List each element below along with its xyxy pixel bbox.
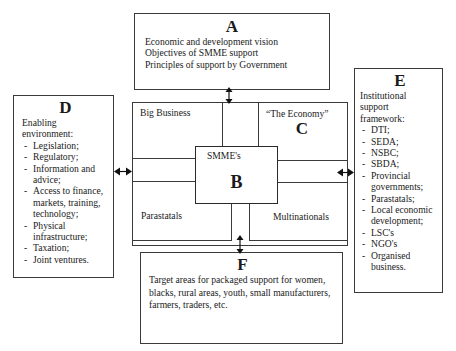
box-b-label: SMME's [196,150,277,161]
box-c-letter: C [292,120,312,138]
box-f-letter: F [149,256,336,274]
box-e-letter: E [360,72,440,90]
box-a-line-1: Economic and development vision [145,36,329,47]
box-e-item: NSBC; [360,147,440,158]
box-e-item: NGO's [360,238,440,249]
arrow-d-c-icon [114,167,132,176]
quadrant-parastatals: Parastatals [141,210,182,221]
box-b-letter: B [196,173,277,191]
box-e-item: LSC's [360,227,440,238]
box-e-heading: Institutional support framework: [360,90,420,124]
box-d-letter: D [22,99,109,117]
arrow-c-f-icon [235,235,245,254]
box-d-item: Joint ventures. [22,254,109,265]
box-e-institutional-support: E Institutional support framework: DTI; … [354,68,443,293]
quadrant-big-business: Big Business [140,107,190,118]
c-divider [249,203,250,241]
box-e-item: SBDA; [360,158,440,169]
box-d-item: Physical infrastructure; [22,220,109,243]
box-d-heading: Enabling environment: [22,117,92,140]
quadrant-multinationals: Multinationals [273,211,329,222]
box-a-vision: A Economic and development vision Object… [134,13,330,90]
box-d-item: Access to finance, markets, training, te… [22,185,109,219]
box-e-item: SEDA; [360,136,440,147]
box-e-item: Parastatals; [360,193,440,204]
box-d-item: Regulatory; [22,151,109,162]
box-d-list: Legislation; Regulatory; Information and… [22,140,109,265]
box-a-line-2: Objectives of SMME support [145,47,329,58]
c-divider [258,102,259,146]
box-d-item: Legislation; [22,140,109,151]
box-a-line-3: Principles of support by Government [145,59,329,70]
box-e-list: DTI; SEDA; NSBC; SBDA; Provincial govern… [360,124,440,272]
c-divider [132,158,195,159]
box-e-item: Organised business. [360,250,440,273]
c-divider [222,102,223,146]
box-a-letter: A [135,18,329,36]
box-e-item: Provincial governments; [360,170,440,193]
c-divider [132,240,232,241]
box-d-item: Information and advice; [22,163,109,186]
c-divider [277,182,348,183]
box-f-target-areas: F Target areas for packaged support for … [140,252,343,344]
box-e-item: DTI; [360,124,440,135]
c-divider [132,181,195,182]
box-d-enabling-environment: D Enabling environment: Legislation; Reg… [13,95,114,278]
c-divider [277,160,348,161]
c-divider [249,240,348,241]
c-divider [231,203,232,241]
box-f-text: Target areas for packaged support for wo… [149,274,336,312]
box-b-smmes: SMME's B [195,146,278,204]
arrow-e-c-icon [337,168,354,177]
arrow-a-c-icon [224,87,234,104]
box-d-item: Taxation; [22,242,109,253]
box-e-item: Local economic development; [360,204,440,227]
quadrant-the-economy: “The Economy” [266,108,329,119]
